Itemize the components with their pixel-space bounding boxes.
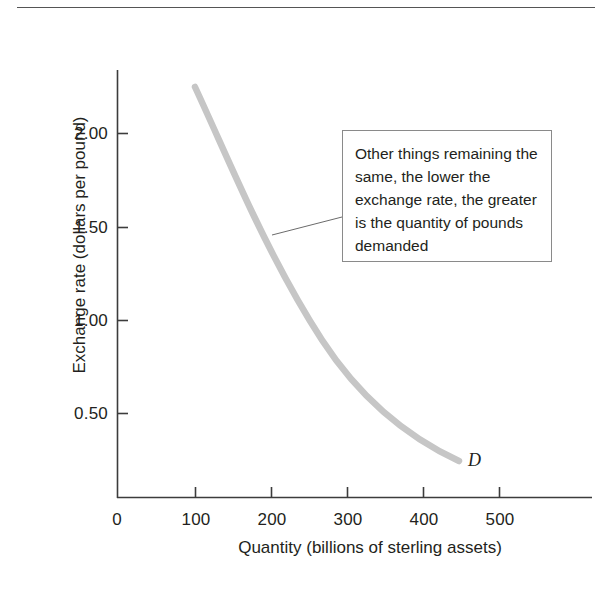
plot-area [0,0,612,591]
demand-curve-label: D [468,450,481,471]
callout-leader-line [272,217,342,235]
callout-text: Other things remaining the same, the low… [355,142,541,257]
xtick-label-100: 100 [171,510,221,530]
y-axis-title: Exchange rate (dollars per pound) [70,45,90,445]
xtick-label-0: 0 [97,510,137,530]
exchange-rate-demand-figure: 2.00 1.50 1.00 0.50 0 100 200 300 400 50… [0,0,612,591]
callout-box: Other things remaining the same, the low… [342,130,552,262]
xtick-label-500: 500 [475,510,525,530]
xtick-label-400: 400 [399,510,449,530]
x-tick-marks [196,487,500,497]
xtick-label-300: 300 [323,510,373,530]
y-tick-marks [117,134,128,414]
x-axis-title: Quantity (billions of sterling assets) [150,538,590,558]
xtick-label-200: 200 [247,510,297,530]
